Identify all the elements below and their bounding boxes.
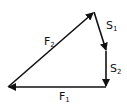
label-s1: S1 bbox=[106, 20, 117, 33]
label-f1: F1 bbox=[59, 91, 70, 104]
vector-diagram: F2 S1 S2 F1 bbox=[0, 0, 127, 111]
label-f2: F2 bbox=[44, 36, 55, 49]
vector-f2-arrow bbox=[8, 13, 93, 87]
vector-s1-arrow bbox=[94, 12, 106, 50]
label-s2: S2 bbox=[110, 63, 121, 76]
